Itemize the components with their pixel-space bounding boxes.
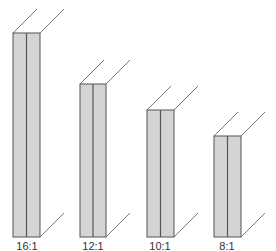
slab-label-2: 10:1 [140, 240, 180, 251]
aspect-ratio-diagram [0, 0, 276, 251]
slab-3 [214, 112, 265, 237]
slab-1 [80, 60, 130, 237]
slab-label-1: 12:1 [73, 240, 113, 251]
slab-label-3: 8:1 [207, 240, 247, 251]
slab-2 [147, 86, 198, 237]
slab-0 [13, 9, 64, 237]
slab-label-0: 16:1 [7, 240, 47, 251]
